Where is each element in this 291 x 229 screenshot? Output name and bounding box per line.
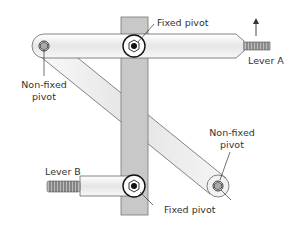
nonfixed-pivot-right (213, 181, 223, 191)
label-lever-a: Lever A (248, 55, 284, 66)
label-nonfixed-pivot-left-1: Non-fixed (21, 79, 67, 90)
linkage-diagram: Fixed pivot Lever A Non-fixed pivot Non-… (0, 0, 291, 229)
label-lever-b: Lever B (45, 166, 81, 177)
label-nonfixed-pivot-left-2: pivot (32, 91, 56, 102)
up-arrow-icon (253, 18, 259, 36)
lever-a (32, 18, 270, 58)
label-nonfixed-pivot-right-1: Non-fixed (209, 127, 255, 138)
label-nonfixed-pivot-right-2: pivot (220, 139, 244, 150)
label-fixed-pivot-bottom: Fixed pivot (164, 204, 216, 215)
label-fixed-pivot-top: Fixed pivot (157, 17, 209, 28)
lever-b-thread (47, 181, 80, 192)
nonfixed-pivot-left (39, 41, 49, 51)
lever-a-thread (244, 42, 270, 50)
